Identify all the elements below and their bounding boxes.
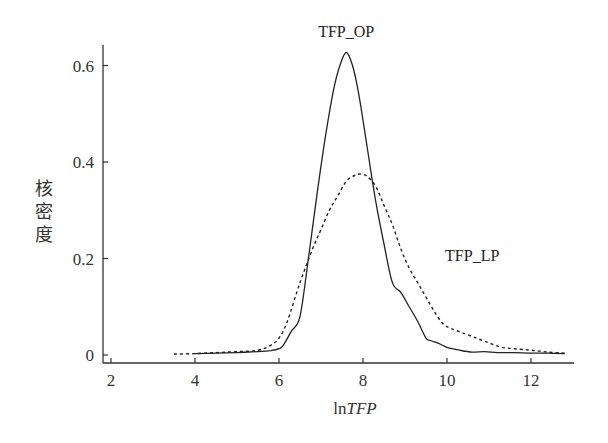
series-lines [174,53,565,355]
x-tick-label: 8 [359,371,368,390]
series-label-tfp-lp: TFP_LP [445,247,499,264]
y-tick-label: 0.4 [73,153,95,172]
x-tick-label: 10 [439,371,456,390]
y-axis-title: 核密度 [34,177,54,246]
series-line-tfp-lp [174,174,565,354]
x-tick-label: 6 [275,371,284,390]
series-labels: TFP_OPTFP_LP [318,23,499,264]
y-tick-label: 0 [86,346,95,365]
series-line-tfp-op [195,53,565,354]
y-tick-label: 0.6 [73,57,94,76]
y-tick-label: 0.2 [73,250,94,269]
series-label-tfp-op: TFP_OP [318,23,374,40]
x-tick-label: 12 [523,371,540,390]
x-tick-label: 2 [107,371,116,390]
kernel-density-chart: 00.20.40.6 24681012 TFP_OPTFP_LP lnTFP [0,0,608,443]
x-axis-title: lnTFP [333,399,376,418]
axes [103,45,574,363]
x-tick-label: 4 [191,371,200,390]
